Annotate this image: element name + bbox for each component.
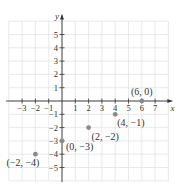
- x-tick-label: 6: [140, 103, 144, 113]
- point-label: (6, 0): [131, 86, 153, 98]
- y-arrow-icon: [60, 15, 64, 20]
- x-tick-label: 4: [113, 103, 118, 113]
- x-axis-label: x: [169, 103, 174, 113]
- x-tick-label: 1: [73, 103, 77, 113]
- x-tick-label: −2: [31, 103, 40, 113]
- point-label: (−2, −4): [6, 157, 39, 169]
- coordinate-plane: xy −3−2−11234567−5−4−3−2−112345 (6, 0)(4…: [0, 0, 186, 188]
- point-label: (4, −1): [117, 117, 144, 129]
- y-tick-label: 1: [54, 83, 58, 93]
- y-tick-label: −2: [49, 123, 58, 133]
- y-tick-label: −3: [49, 136, 58, 146]
- x-tick-label: 2: [86, 103, 90, 113]
- data-point: [60, 139, 65, 144]
- data-point: [139, 99, 144, 104]
- x-tick-label: −3: [18, 103, 27, 113]
- y-tick-label: 3: [54, 56, 58, 66]
- point-label: (2, −2): [92, 131, 119, 143]
- point-label: (0, −3): [66, 141, 93, 153]
- y-tick-label: −4: [49, 149, 59, 159]
- data-point: [86, 125, 91, 130]
- y-axis-label: y: [54, 11, 59, 21]
- x-tick-label: 7: [153, 103, 157, 113]
- x-tick-label: 5: [126, 103, 130, 113]
- y-tick-label: 2: [54, 69, 58, 79]
- y-tick-label: −1: [49, 109, 58, 119]
- data-point: [113, 112, 118, 117]
- y-tick-label: −5: [49, 163, 58, 173]
- data-point: [33, 152, 38, 157]
- y-tick-label: 5: [54, 30, 58, 40]
- x-tick-label: 3: [100, 103, 104, 113]
